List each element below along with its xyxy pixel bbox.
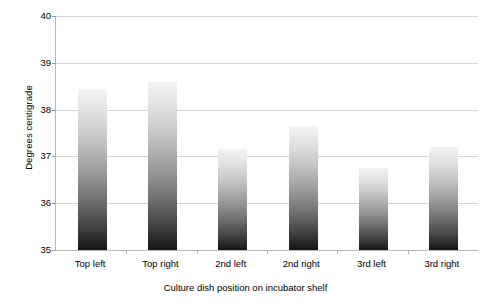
y-axis-title: Degrees centigrade — [23, 48, 34, 208]
bar — [218, 149, 247, 250]
bars-group — [56, 16, 478, 250]
bar — [359, 168, 388, 250]
y-tick-label: 37 — [40, 151, 51, 161]
x-axis-title: Culture dish position on incubator shelf — [0, 282, 491, 293]
y-tick-label: 40 — [40, 11, 51, 21]
x-tick-mark — [197, 250, 198, 254]
y-tick-label: 38 — [40, 105, 51, 115]
plot-area: 353637383940 — [55, 16, 478, 251]
x-tick-label: 3rd right — [397, 258, 487, 269]
x-tick-mark — [408, 250, 409, 254]
x-tick-mark — [337, 250, 338, 254]
bar — [429, 147, 458, 250]
x-tick-mark — [267, 250, 268, 254]
bar — [148, 82, 177, 250]
bar-chart: Degrees centigrade 353637383940 Top left… — [0, 0, 491, 304]
bar — [289, 126, 318, 250]
y-tick-label: 39 — [40, 58, 51, 68]
x-tick-mark — [126, 250, 127, 254]
y-tick-label: 35 — [40, 245, 51, 255]
y-tick-mark — [52, 250, 56, 251]
bar — [78, 89, 107, 250]
y-tick-label: 36 — [40, 198, 51, 208]
